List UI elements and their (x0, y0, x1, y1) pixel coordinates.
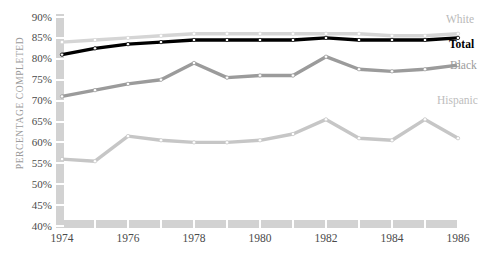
x-tick-label: 1984 (362, 233, 422, 245)
data-point (258, 38, 261, 41)
data-point (225, 38, 228, 41)
data-point (192, 141, 195, 144)
data-point (258, 74, 261, 77)
data-point (423, 34, 426, 37)
data-point (93, 88, 96, 91)
series-black (60, 55, 459, 98)
data-point (93, 160, 96, 163)
x-tick-label: 1986 (428, 233, 488, 245)
data-point (93, 47, 96, 50)
data-point (291, 132, 294, 135)
x-tick-label: 1982 (296, 233, 356, 245)
data-point (423, 38, 426, 41)
data-point (324, 32, 327, 35)
data-point (423, 118, 426, 121)
data-point (456, 32, 459, 35)
data-point (126, 134, 129, 137)
data-point (60, 95, 63, 98)
data-point (357, 68, 360, 71)
data-point (324, 36, 327, 39)
series-label-white: White (446, 14, 474, 26)
data-point (456, 137, 459, 140)
data-point (126, 82, 129, 85)
data-point (93, 38, 96, 41)
x-tick-label: 1976 (98, 233, 158, 245)
x-tick-label: 1978 (164, 233, 224, 245)
data-point (192, 32, 195, 35)
data-point (324, 55, 327, 58)
series-label-total: Total (449, 39, 474, 51)
line-chart: PERCENTAGE COMPLETED 90%85%80%75%70%65%6… (0, 0, 498, 256)
data-point (225, 76, 228, 79)
data-point (225, 32, 228, 35)
data-point (159, 139, 162, 142)
data-point (60, 40, 63, 43)
data-point (126, 42, 129, 45)
series-hispanic (60, 118, 459, 163)
data-point (291, 32, 294, 35)
data-point (357, 38, 360, 41)
series-label-hispanic: Hispanic (437, 95, 478, 107)
data-point (258, 139, 261, 142)
data-point (423, 68, 426, 71)
data-point (357, 137, 360, 140)
series-label-black: Black (450, 60, 477, 72)
data-point (291, 74, 294, 77)
data-point (192, 38, 195, 41)
data-point (192, 61, 195, 64)
data-point (60, 157, 63, 160)
x-tick-label: 1980 (230, 233, 290, 245)
data-point (390, 38, 393, 41)
data-point (159, 34, 162, 37)
data-point (291, 38, 294, 41)
data-point (324, 118, 327, 121)
data-point (126, 36, 129, 39)
data-point (225, 141, 228, 144)
data-point (258, 32, 261, 35)
plot-area (0, 0, 498, 256)
data-point (390, 34, 393, 37)
x-tick-label: 1974 (32, 233, 92, 245)
data-point (390, 139, 393, 142)
data-point (159, 78, 162, 81)
data-point (390, 70, 393, 73)
data-point (60, 53, 63, 56)
data-point (159, 40, 162, 43)
data-point (357, 32, 360, 35)
